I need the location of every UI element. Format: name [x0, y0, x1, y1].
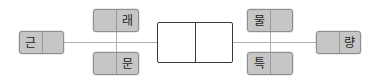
- diagram-canvas: 근 래 문 물 특 량: [0, 0, 378, 83]
- connector-right-horizontal: [233, 42, 316, 43]
- node-teuk[interactable]: 특: [247, 52, 293, 75]
- node-teuk-cell-left: 특: [248, 53, 270, 74]
- node-geun[interactable]: 근: [19, 31, 64, 54]
- node-center-cell-left: [158, 23, 195, 62]
- node-mul-cell-left: 물: [248, 10, 270, 31]
- node-mul[interactable]: 물: [247, 9, 293, 32]
- node-teuk-cell-right: [270, 53, 292, 74]
- node-rae-cell-right: 래: [116, 10, 138, 31]
- node-mun-cell-left: [94, 53, 116, 74]
- node-rae[interactable]: 래: [93, 9, 139, 32]
- node-ryang[interactable]: 량: [316, 31, 361, 54]
- node-mun[interactable]: 문: [93, 52, 139, 75]
- connector-left-horizontal: [64, 42, 157, 43]
- node-ryang-cell-left: [317, 32, 339, 53]
- node-center-cell-right: [195, 23, 232, 62]
- node-mun-cell-right: 문: [116, 53, 138, 74]
- node-rae-cell-left: [94, 10, 116, 31]
- node-geun-cell-left: 근: [20, 32, 42, 53]
- node-mul-cell-right: [270, 10, 292, 31]
- node-ryang-cell-right: 량: [339, 32, 361, 53]
- node-center-empty[interactable]: [157, 22, 233, 63]
- node-geun-cell-right: [42, 32, 64, 53]
